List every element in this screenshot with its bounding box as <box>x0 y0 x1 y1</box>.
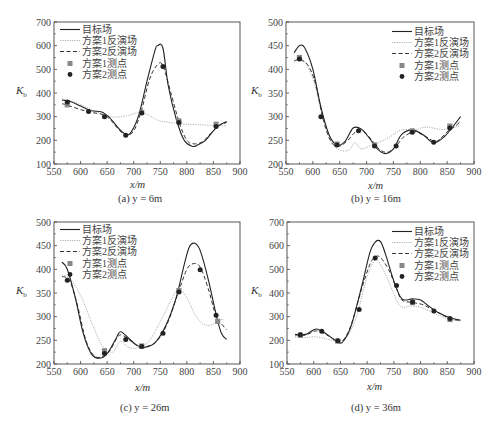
svg-text:700: 700 <box>359 166 374 177</box>
solid-line-icon <box>58 24 82 35</box>
svg-text:450: 450 <box>36 240 51 251</box>
svg-text:600: 600 <box>269 240 284 251</box>
legend-item-scheme1-points: 方案1测点 <box>390 60 469 71</box>
svg-text:650: 650 <box>333 366 348 377</box>
legend-d: 目标场 方案1反演场 方案2反演场 方案1测点 方案2测点 <box>390 226 469 282</box>
legend-item-scheme1-points: 方案1测点 <box>58 258 137 269</box>
legend-item-scheme2-points: 方案2测点 <box>58 269 137 280</box>
svg-text:300: 300 <box>36 311 51 322</box>
svg-text:700: 700 <box>126 366 141 377</box>
svg-text:850: 850 <box>440 166 455 177</box>
svg-text:800: 800 <box>179 366 194 377</box>
svg-text:600: 600 <box>73 366 88 377</box>
svg-text:200: 200 <box>268 159 283 170</box>
svg-text:700: 700 <box>36 17 51 28</box>
svg-text:900: 900 <box>467 166 482 177</box>
legend-item-scheme1-field: 方案1反演场 <box>58 235 137 246</box>
dashed-line-icon <box>58 46 82 57</box>
legend-item-scheme2-points: 方案2测点 <box>390 71 469 82</box>
xlabel-b: x/m <box>368 180 383 191</box>
legend-item-target: 目标场 <box>390 26 469 37</box>
xlabel-c: x/m <box>135 382 150 393</box>
svg-text:750: 750 <box>386 366 401 377</box>
legend-item-scheme1-field: 方案1反演场 <box>390 37 469 48</box>
solid-line-icon <box>58 224 82 235</box>
legend-item-scheme1-points: 方案1测点 <box>58 58 137 69</box>
ylabel-c: Kb <box>16 284 27 299</box>
scheme2-points <box>65 267 219 356</box>
legend-item-scheme2-points: 方案2测点 <box>58 69 137 80</box>
svg-text:600: 600 <box>73 166 88 177</box>
caption-c: (c) y = 26m <box>120 402 169 413</box>
legend-c: 目标场 方案1反演场 方案2反演场 方案1测点 方案2测点 <box>58 224 137 280</box>
legend-item-scheme2-field: 方案2反演场 <box>390 48 469 59</box>
ylabel-d: Kb <box>251 284 262 299</box>
caption-b: (b) y = 16m <box>351 193 401 204</box>
circle-marker-icon <box>390 271 414 282</box>
xlabel-d: x/m <box>367 381 382 392</box>
xlabel-a: x/m <box>130 179 145 190</box>
dotted-line-icon <box>390 37 414 48</box>
ylabel-b: Kb <box>251 84 262 99</box>
svg-text:650: 650 <box>100 366 115 377</box>
svg-text:500: 500 <box>268 17 283 28</box>
svg-text:200: 200 <box>269 335 284 346</box>
dotted-line-icon <box>390 237 414 248</box>
svg-text:650: 650 <box>332 166 347 177</box>
svg-text:600: 600 <box>306 366 321 377</box>
square-marker-icon <box>390 60 414 71</box>
svg-text:500: 500 <box>36 217 51 228</box>
svg-text:250: 250 <box>36 335 51 346</box>
svg-text:700: 700 <box>269 217 284 228</box>
circle-marker-icon <box>58 269 82 280</box>
square-marker-icon <box>390 260 414 271</box>
svg-text:200: 200 <box>36 359 51 370</box>
caption-a: (a) y = 6m <box>118 193 162 204</box>
dashed-line-icon <box>390 48 414 59</box>
square-marker-icon <box>58 58 82 69</box>
svg-text:300: 300 <box>268 111 283 122</box>
svg-text:850: 850 <box>206 366 221 377</box>
svg-text:800: 800 <box>413 166 428 177</box>
legend-b: 目标场 方案1反演场 方案2反演场 方案1测点 方案2测点 <box>390 26 469 82</box>
svg-text:850: 850 <box>440 366 455 377</box>
legend-item-target: 目标场 <box>58 24 137 35</box>
svg-text:800: 800 <box>413 366 428 377</box>
svg-text:900: 900 <box>467 366 482 377</box>
svg-text:650: 650 <box>100 166 115 177</box>
legend-item-scheme1-field: 方案1反演场 <box>390 237 469 248</box>
legend-item-scheme2-field: 方案2反演场 <box>58 46 137 57</box>
svg-text:250: 250 <box>268 135 283 146</box>
caption-d: (d) y = 36m <box>351 402 401 413</box>
legend-a: 目标场 方案1反演场 方案2反演场 方案1测点 方案2测点 <box>58 24 137 80</box>
svg-text:100: 100 <box>36 159 51 170</box>
legend-item-scheme1-field: 方案1反演场 <box>58 35 137 46</box>
circle-marker-icon <box>58 69 82 80</box>
svg-text:600: 600 <box>36 40 51 51</box>
square-marker-icon <box>58 258 82 269</box>
svg-text:750: 750 <box>153 366 168 377</box>
dashed-line-icon <box>58 246 82 257</box>
svg-text:750: 750 <box>153 166 168 177</box>
svg-text:100: 100 <box>269 359 284 370</box>
solid-line-icon <box>390 26 414 37</box>
svg-text:400: 400 <box>36 88 51 99</box>
svg-text:500: 500 <box>269 264 284 275</box>
svg-text:900: 900 <box>233 166 248 177</box>
svg-text:850: 850 <box>206 166 221 177</box>
legend-item-scheme1-points: 方案1测点 <box>390 260 469 271</box>
svg-text:600: 600 <box>305 166 320 177</box>
svg-text:350: 350 <box>36 288 51 299</box>
svg-text:200: 200 <box>36 135 51 146</box>
svg-text:400: 400 <box>269 288 284 299</box>
ylabel-a: Kb <box>16 84 27 99</box>
svg-text:750: 750 <box>386 166 401 177</box>
svg-text:450: 450 <box>268 40 283 51</box>
svg-text:500: 500 <box>36 64 51 75</box>
dotted-line-icon <box>58 235 82 246</box>
svg-text:900: 900 <box>233 366 248 377</box>
dashed-line-icon <box>390 248 414 259</box>
circle-marker-icon <box>390 71 414 82</box>
legend-item-target: 目标场 <box>390 226 469 237</box>
svg-text:400: 400 <box>268 64 283 75</box>
